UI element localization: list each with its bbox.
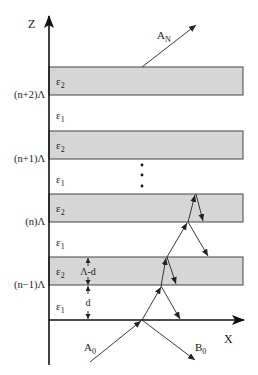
incident-wave-label: A0 xyxy=(84,341,96,356)
layer-band-1 xyxy=(49,67,243,95)
boundary-label-n-plus-1: (n+1)Λ xyxy=(14,153,45,165)
thin-layer-dimension: d xyxy=(86,297,91,308)
epsilon1-label-3: ε1 xyxy=(56,236,65,251)
transmitted-ray xyxy=(142,25,196,67)
thick-layer-dimension: Λ-d xyxy=(80,266,96,277)
z-axis-label: Z xyxy=(28,17,35,31)
layer-bands xyxy=(49,67,243,285)
incident-ray xyxy=(90,321,141,362)
layer-band-3 xyxy=(49,194,243,222)
boundary-label-n-plus-2: (n+2)Λ xyxy=(14,89,45,101)
epsilon1-label-4: ε1 xyxy=(56,300,65,315)
multilayer-diagram: Z X (n+2)Λ (n+1)Λ (n)Λ (n−1)Λ ε2 ε2 ε2 ε… xyxy=(0,0,258,375)
ellipsis-dots xyxy=(141,164,144,188)
layer-band-2 xyxy=(49,131,243,159)
epsilon1-label-2: ε1 xyxy=(56,173,65,188)
reflected-wave-label: B0 xyxy=(195,341,206,356)
boundary-label-n: (n)Λ xyxy=(25,216,45,228)
x-axis-label: X xyxy=(224,332,233,346)
reflected-ray xyxy=(142,320,195,360)
boundary-label-n-minus-1: (n−1)Λ xyxy=(14,279,45,291)
transmitted-wave-label: AN xyxy=(157,29,171,44)
epsilon1-label-1: ε1 xyxy=(56,109,65,124)
layer-band-4 xyxy=(49,257,243,285)
dimension-markers: Λ-d d xyxy=(80,258,96,319)
